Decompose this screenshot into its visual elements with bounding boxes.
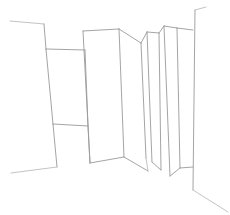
line-drawing-svg: Perspective Line Drawing Sparse grey con… — [0, 0, 230, 215]
artwork-background — [0, 0, 230, 215]
artwork-canvas: Perspective Line Drawing Sparse grey con… — [0, 0, 230, 215]
